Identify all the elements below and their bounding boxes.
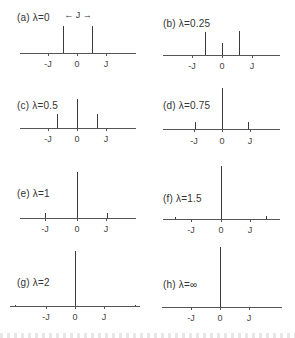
spectral-line: [222, 88, 223, 129]
tick-neg-j: [194, 129, 195, 132]
tick-j: [104, 306, 105, 309]
spectral-line: [239, 31, 240, 55]
tick-label: -J: [41, 224, 49, 234]
panel-c-label: (c) λ=0.5: [17, 100, 58, 111]
tick-label: -J: [190, 136, 198, 146]
spectral-line: [75, 251, 76, 306]
tick-label: 0: [219, 61, 224, 71]
tick-label: 0: [72, 312, 77, 322]
spectral-line: [97, 114, 98, 128]
tick-label: 0: [74, 134, 79, 144]
x-axis: [20, 128, 136, 129]
tick-neg-j: [48, 53, 49, 56]
tick-label: 0: [218, 225, 223, 235]
tick-zero: [77, 128, 78, 131]
x-axis: [20, 218, 136, 219]
x-axis: [162, 307, 282, 308]
tick-j: [252, 55, 253, 58]
tick-label: -J: [42, 312, 50, 322]
tick-label: -J: [44, 59, 52, 69]
tick-zero: [221, 219, 222, 222]
tick-neg-j: [191, 219, 192, 222]
spectral-line: [77, 99, 78, 128]
panel-e-label: (e) λ=1: [17, 188, 50, 199]
spectral-line: [77, 172, 78, 218]
tick-zero: [220, 307, 221, 310]
tick-label: J: [248, 225, 253, 235]
spectral-line: [205, 32, 206, 55]
tick-label: 0: [217, 313, 222, 323]
tick-neg-j: [48, 128, 49, 131]
tick-label: J: [104, 134, 109, 144]
tick-label: J: [104, 224, 109, 234]
tick-label: J: [250, 61, 255, 71]
cropped-caption: [0, 333, 295, 338]
spectral-line: [57, 114, 58, 128]
panel-g-label: (g) λ=2: [17, 277, 50, 288]
spectral-line: [266, 216, 267, 219]
x-axis: [20, 53, 136, 54]
panel-d-label: (d) λ=0.75: [163, 100, 210, 111]
tick-label: J: [248, 136, 253, 146]
spectral-line: [92, 26, 93, 53]
panel-b-label: (b) λ=0.25: [163, 18, 210, 29]
tick-j: [106, 53, 107, 56]
spectral-line: [45, 213, 46, 218]
tick-zero: [77, 53, 78, 56]
tick-label: -J: [187, 225, 195, 235]
tick-neg-j: [46, 306, 47, 309]
tick-j: [106, 128, 107, 131]
spectral-line: [15, 305, 16, 306]
tick-label: 0: [74, 59, 79, 69]
tick-j: [250, 129, 251, 132]
tick-label: J: [102, 312, 107, 322]
spectral-line: [63, 26, 64, 53]
tick-label: 0: [219, 136, 224, 146]
tick-zero: [222, 129, 223, 132]
tick-j: [106, 218, 107, 221]
spectral-line: [248, 122, 249, 129]
panel-a-label: (a) λ=0: [17, 12, 50, 23]
spectral-line: [221, 166, 222, 219]
tick-neg-j: [192, 55, 193, 58]
tick-j: [250, 219, 251, 222]
panel-f-label: (f) λ=1.5: [163, 193, 202, 204]
spectral-line: [175, 217, 176, 219]
tick-label: J: [104, 59, 109, 69]
tick-zero: [222, 55, 223, 58]
panel-h-label: (h) λ=∞: [163, 279, 197, 290]
spectral-line: [195, 122, 196, 129]
spectral-line: [135, 305, 136, 306]
tick-neg-j: [191, 307, 192, 310]
tick-label: J: [247, 313, 252, 323]
tick-j: [249, 307, 250, 310]
tick-label: -J: [188, 61, 196, 71]
tick-zero: [77, 218, 78, 221]
tick-label: -J: [44, 134, 52, 144]
tick-label: 0: [74, 224, 79, 234]
spectral-line: [107, 213, 108, 218]
tick-zero: [75, 306, 76, 309]
spectral-line: [220, 247, 221, 307]
tick-neg-j: [45, 218, 46, 221]
j-width-annotation: ← J →: [64, 10, 92, 20]
tick-label: -J: [187, 313, 195, 323]
spectral-line: [222, 43, 223, 55]
